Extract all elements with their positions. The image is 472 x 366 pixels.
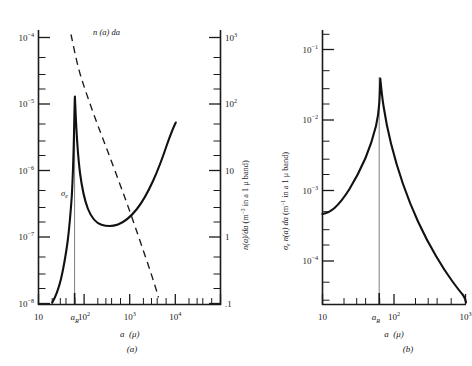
- panel-b-xaxis-label: a (μ): [384, 329, 404, 339]
- panel-a-xtick-label-1e3: 103: [124, 310, 136, 322]
- panel-b-caption: (b): [403, 344, 414, 354]
- panel-b-aR-label: aR: [372, 312, 381, 324]
- panel-a-right-major-ticks: [209, 38, 221, 304]
- panel-a-right-minor-ticks: [214, 58, 221, 289]
- figure-root: 10−4 10−5 10−6 10−7 10−8 103 1: [0, 0, 472, 366]
- panel-a-right-ytick-label-1: 1: [225, 232, 230, 242]
- panel-a-right-ytick-label-1e3: 103: [225, 31, 237, 43]
- panel-a-ytick-label-1e-7: 10−7: [18, 230, 34, 242]
- panel-a-right-ytick-label-1e2: 102: [225, 97, 237, 109]
- panel-b-xtick-label-1e3: 103: [459, 310, 471, 322]
- panel-a-annotation-sigma-e: σe: [61, 188, 68, 199]
- panel-b: 10−1 10−2 10−3 10−4 10 102 103 aR: [280, 30, 472, 354]
- panel-b-ytick-label-1e-4: 10−4: [302, 254, 318, 266]
- panel-b-xtick-label-10: 10: [318, 312, 328, 322]
- panel-b-ytick-label-1e-2: 10−2: [302, 113, 318, 125]
- panel-a-curve-n-a-da: [71, 35, 159, 298]
- panel-a-right-ytick-label-10: 10: [225, 166, 235, 176]
- panel-a-caption: (a): [127, 344, 138, 354]
- panel-a-ytick-label-1e-5: 10−5: [18, 97, 34, 109]
- panel-a-xaxis-label: a (μ): [120, 329, 140, 339]
- panel-b-y-minor-ticks: [323, 34, 330, 300]
- panel-a-annotation-n-a-da: n (a) da: [93, 27, 120, 37]
- figure-svg: 10−4 10−5 10−6 10−7 10−8 103 1: [0, 0, 472, 366]
- panel-b-x-minor-ticks: [344, 298, 451, 305]
- panel-a-left-minor-ticks: [39, 58, 46, 289]
- panel-a-right-yaxis-label: n(a)/da (m−3 in a 1 μ band): [240, 160, 250, 250]
- panel-a-xtick-label-1e2: 102: [78, 310, 90, 322]
- panel-b-ytick-label-1e-1: 10−1: [302, 43, 318, 55]
- panel-b-xtick-label-1e2: 102: [388, 310, 400, 322]
- panel-a-xtick-label-1e4: 104: [169, 310, 181, 322]
- panel-a: 10−4 10−5 10−6 10−7 10−8 103 1: [18, 27, 250, 354]
- panel-b-ytick-label-1e-3: 10−3: [302, 184, 318, 196]
- panel-b-curve-sigma-e-n-a-da: [323, 79, 467, 303]
- panel-a-ytick-label-1e-4: 10−4: [18, 31, 34, 43]
- panel-a-left-major-ticks: [39, 38, 51, 304]
- panel-b-yaxis-label: σe n(a) da (m−1 in a 1 μ band): [280, 152, 292, 250]
- panel-a-curve-sigma-e: [52, 97, 176, 303]
- panel-a-ytick-label-1e-6: 10−6: [18, 164, 34, 176]
- panel-a-xtick-label-10: 10: [34, 312, 44, 322]
- panel-a-ytick-label-1e-8: 10−8: [18, 297, 34, 309]
- panel-a-x-minor-ticks: [52, 298, 212, 305]
- panel-a-right-ytick-label-0.1: .1: [225, 299, 232, 309]
